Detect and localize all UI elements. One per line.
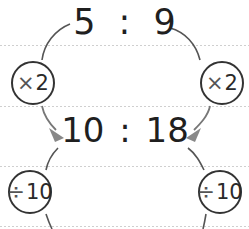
middle-ratio-right: 18 <box>146 110 189 150</box>
multiply-circle-right: × 2 <box>200 61 244 105</box>
multiply-circle-left: × 2 <box>11 61 55 105</box>
connector-arrow-right <box>194 106 210 130</box>
divisor-value: 10 <box>216 180 243 204</box>
top-ratio-right: 9 <box>154 2 177 42</box>
divisor-value: 10 <box>26 180 53 204</box>
ratio-diagram: 5 : 9 × 2 × 2 10 : 18 ÷ 10 ÷ 10 <box>0 0 249 229</box>
divide-circle-left: ÷ 10 <box>8 170 52 214</box>
middle-ratio-left: 10 <box>61 110 104 150</box>
middle-ratio: 10 : 18 <box>55 110 195 150</box>
top-ratio-left: 5 <box>73 2 96 42</box>
top-ratio: 5 : 9 <box>60 2 190 42</box>
middle-ratio-separator: : <box>119 110 130 150</box>
multiply-icon: × <box>17 71 35 95</box>
top-ratio-separator: : <box>119 2 132 42</box>
divide-circle-right: ÷ 10 <box>198 170 242 214</box>
divide-icon: ÷ <box>7 180 25 204</box>
multiplier-value: 2 <box>36 71 49 95</box>
multiply-icon: × <box>206 71 224 95</box>
connector-arrow-left <box>42 106 56 130</box>
multiplier-value: 2 <box>225 71 238 95</box>
divide-icon: ÷ <box>197 180 215 204</box>
